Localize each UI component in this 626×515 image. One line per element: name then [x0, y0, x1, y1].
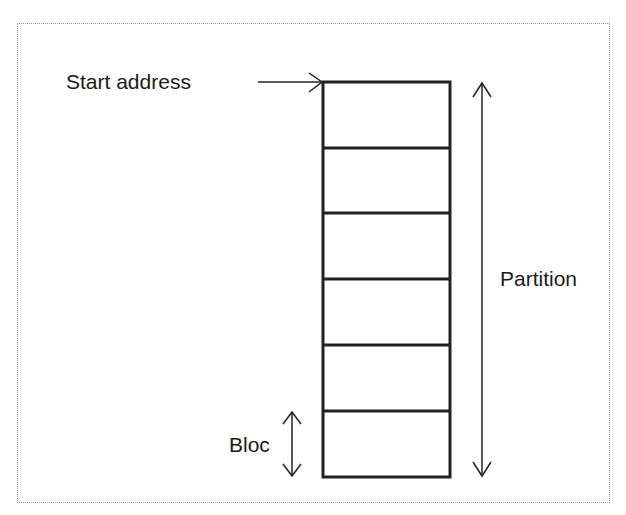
start-address-arrow-icon: [258, 73, 322, 92]
start-address-label: Start address: [66, 70, 191, 94]
partition-extent-arrow-icon: [473, 83, 491, 476]
partition-blocks: [323, 82, 450, 477]
bloc-extent-arrow-icon: [283, 412, 301, 476]
partition-label: Partition: [500, 267, 577, 291]
bloc-label: Bloc: [229, 433, 270, 457]
